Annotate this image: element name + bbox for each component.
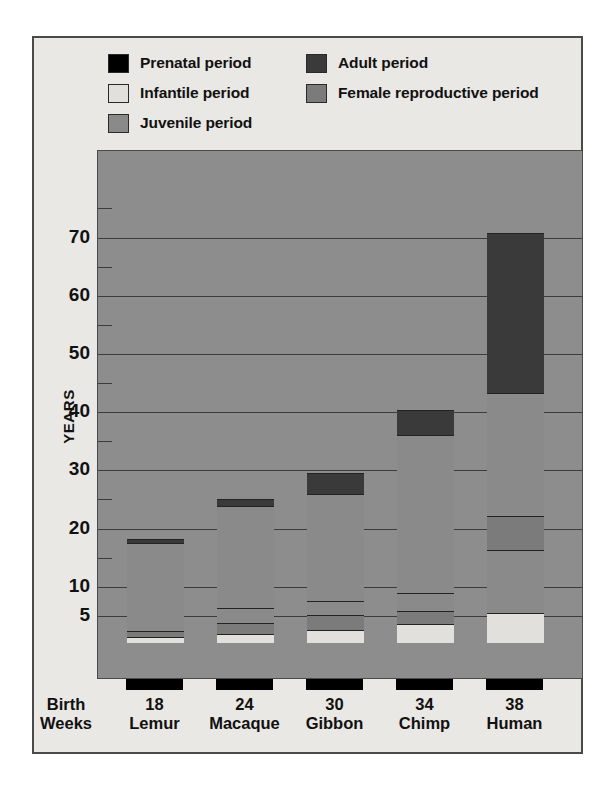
plot-area — [97, 150, 583, 679]
prenatal-strip-chimp — [396, 679, 453, 690]
legend-item-infantile: Infantile period — [108, 78, 318, 108]
minor-tick-65 — [98, 267, 112, 268]
prenatal-strip-human — [486, 679, 543, 690]
bar-segment-lemur-infantile-1 — [127, 637, 184, 643]
x-category-weeks-human: 38 — [474, 695, 555, 714]
bar-segment-macaque-juvenile-4 — [217, 506, 274, 608]
prenatal-strip-macaque — [216, 679, 273, 690]
bar-segment-chimp-infantile-1 — [397, 624, 454, 643]
legend: Prenatal periodInfantile periodJuvenile … — [82, 48, 572, 144]
x-category-name-lemur: Lemur — [114, 714, 195, 733]
bar-segment-gibbon-juvenile-3 — [307, 601, 364, 616]
x-axis-header-line2: Weeks — [36, 714, 96, 733]
bar-segment-human-adult-5 — [487, 233, 544, 393]
legend-item-juvenile: Juvenile period — [108, 108, 318, 138]
bar-segment-human-female_reproductive-3 — [487, 516, 544, 550]
bar-segment-chimp-female_reproductive-2 — [397, 611, 454, 624]
legend-item-prenatal: Prenatal period — [108, 48, 318, 78]
x-category-weeks-macaque: 24 — [204, 695, 285, 714]
x-category-weeks-chimp: 34 — [384, 695, 465, 714]
legend-column-right: Adult periodFemale reproductive period — [306, 48, 576, 108]
bar-macaque — [217, 499, 274, 643]
bar-segment-gibbon-juvenile-4 — [307, 494, 364, 601]
bar-segment-lemur-female_reproductive-2 — [127, 631, 184, 637]
x-axis-header: Birth Weeks — [36, 695, 96, 734]
prenatal-strip-gibbon — [306, 679, 363, 690]
figure-frame: Prenatal periodInfantile periodJuvenile … — [32, 36, 583, 754]
bar-segment-chimp-juvenile-3 — [397, 593, 454, 611]
bar-segment-human-juvenile-4 — [487, 393, 544, 516]
minor-tick-75 — [98, 208, 112, 209]
x-category-human: 38Human — [474, 695, 555, 734]
legend-item-female_reproductive: Female reproductive period — [306, 78, 576, 108]
legend-label-prenatal: Prenatal period — [140, 54, 251, 72]
minor-tick-45 — [98, 383, 112, 384]
y-tick-label-60: 60 — [48, 284, 90, 306]
x-category-name-macaque: Macaque — [204, 714, 285, 733]
bar-lemur — [127, 539, 184, 643]
y-tick-label-20: 20 — [48, 517, 90, 539]
x-category-lemur: 18Lemur — [114, 695, 195, 734]
bar-segment-macaque-infantile-1 — [217, 634, 274, 643]
prenatal-strip-lemur — [126, 679, 183, 690]
x-category-name-chimp: Chimp — [384, 714, 465, 733]
y-axis-tick-labels: 510203040506070 — [42, 150, 90, 680]
y-tick-label-40: 40 — [48, 400, 90, 422]
x-axis-header-line1: Birth — [36, 695, 96, 714]
bar-segment-macaque-juvenile-3 — [217, 608, 274, 623]
x-category-weeks-lemur: 18 — [114, 695, 195, 714]
bar-gibbon — [307, 473, 364, 643]
legend-column-left: Prenatal periodInfantile periodJuvenile … — [108, 48, 318, 138]
legend-swatch-female_reproductive — [306, 84, 327, 103]
x-category-chimp: 34Chimp — [384, 695, 465, 734]
bar-segment-gibbon-female_reproductive-2 — [307, 615, 364, 630]
legend-label-infantile: Infantile period — [140, 84, 250, 102]
legend-swatch-prenatal — [108, 54, 129, 73]
legend-item-adult: Adult period — [306, 48, 576, 78]
legend-label-adult: Adult period — [338, 54, 428, 72]
bar-segment-gibbon-infantile-1 — [307, 630, 364, 643]
chart-figure: Prenatal periodInfantile periodJuvenile … — [0, 0, 614, 790]
legend-swatch-juvenile — [108, 114, 129, 133]
bar-segment-chimp-adult-5 — [397, 410, 454, 435]
minor-tick-35 — [98, 441, 112, 442]
minor-tick-55 — [98, 325, 112, 326]
y-tick-label-10: 10 — [48, 575, 90, 597]
y-tick-label-50: 50 — [48, 342, 90, 364]
bar-human — [487, 233, 544, 643]
bar-segment-macaque-adult-5 — [217, 499, 274, 506]
bar-segment-gibbon-adult-5 — [307, 473, 364, 494]
minor-tick-25 — [98, 499, 112, 500]
legend-swatch-adult — [306, 54, 327, 73]
bar-chimp — [397, 410, 454, 643]
x-category-name-human: Human — [474, 714, 555, 733]
x-category-weeks-gibbon: 30 — [294, 695, 375, 714]
minor-tick-15 — [98, 558, 112, 559]
x-category-gibbon: 30Gibbon — [294, 695, 375, 734]
legend-label-female_reproductive: Female reproductive period — [338, 84, 539, 102]
legend-swatch-infantile — [108, 84, 129, 103]
bar-segment-human-infantile-1 — [487, 613, 544, 643]
y-tick-label-30: 30 — [48, 458, 90, 480]
bar-segment-lemur-adult-4 — [127, 539, 184, 543]
legend-label-juvenile: Juvenile period — [140, 114, 252, 132]
bar-segment-human-juvenile-2 — [487, 550, 544, 612]
x-category-macaque: 24Macaque — [204, 695, 285, 734]
bar-segment-lemur-juvenile-3 — [127, 543, 184, 631]
bar-segment-macaque-female_reproductive-2 — [217, 623, 274, 633]
y-tick-label-70: 70 — [48, 226, 90, 248]
bar-segment-chimp-juvenile-4 — [397, 435, 454, 593]
y-tick-label-5: 5 — [48, 604, 90, 626]
x-axis-area: 18Lemur24Macaque30Gibbon34Chimp38Human — [97, 679, 583, 749]
x-category-name-gibbon: Gibbon — [294, 714, 375, 733]
